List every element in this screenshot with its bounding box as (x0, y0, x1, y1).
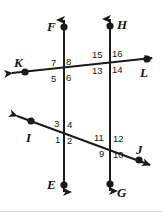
angle-number-15: 15 (92, 50, 103, 60)
angle-number-8: 8 (66, 57, 71, 67)
point-label-J: J (136, 143, 143, 156)
point-label-G: G (117, 186, 126, 199)
angle-number-10: 10 (113, 150, 124, 160)
point-label-H: H (117, 18, 127, 31)
point-dot-F (60, 23, 67, 30)
bottom-divider (0, 211, 162, 212)
point-label-E: E (47, 178, 56, 191)
point-dot-L (143, 55, 150, 62)
point-dot-H (106, 22, 113, 29)
lower-transversal (17, 116, 150, 165)
line-segment-KL (12, 58, 152, 73)
point-label-K: K (14, 56, 23, 69)
angle-number-14: 14 (112, 65, 123, 75)
angle-number-2: 2 (67, 136, 72, 146)
angle-number-6: 6 (66, 73, 71, 83)
angle-number-5: 5 (51, 74, 56, 84)
angle-number-16: 16 (112, 49, 123, 59)
angle-number-9: 9 (99, 149, 104, 159)
angle-number-12: 12 (113, 134, 124, 144)
angle-number-1: 1 (55, 135, 60, 145)
point-dot-E (60, 181, 67, 188)
point-dot-J (135, 156, 142, 163)
point-label-L: L (140, 66, 148, 79)
point-label-I: I (26, 131, 31, 144)
angle-number-11: 11 (94, 133, 104, 143)
angle-number-3: 3 (54, 119, 59, 129)
upper-transversal (12, 58, 152, 73)
angle-number-13: 13 (92, 66, 103, 76)
angle-number-7: 7 (51, 58, 56, 68)
point-label-F: F (47, 20, 56, 33)
angle-number-4: 4 (67, 120, 72, 130)
diagram-canvas (0, 0, 162, 212)
geometry-diagram: F H K L I J E G 7 8 5 6 15 16 13 14 3 4 … (0, 0, 162, 212)
point-dot-G (106, 180, 113, 187)
point-dot-I (27, 117, 34, 124)
line-segment-IJ (17, 116, 150, 165)
